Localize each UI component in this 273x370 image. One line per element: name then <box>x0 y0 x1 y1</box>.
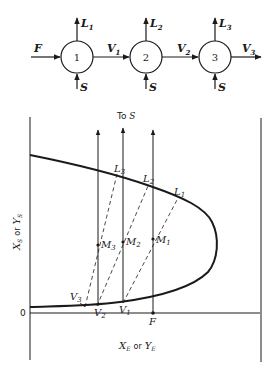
m2-point <box>121 240 124 243</box>
l2-flow-label: L2 <box>149 17 163 32</box>
v2-label: V2 <box>94 307 106 320</box>
l3-flow-label: L3 <box>218 17 232 32</box>
v3-label: V3 <box>70 291 82 304</box>
stage-3-number: 3 <box>212 52 218 63</box>
origin-label: 0 <box>20 308 26 318</box>
stage-2-number: 2 <box>143 52 149 63</box>
s1-flow-label: S <box>80 81 88 94</box>
v1-flow-label: V1 <box>107 42 120 57</box>
phase-diagram <box>30 117 261 362</box>
f-label: F <box>148 316 157 327</box>
m1-label: M1 <box>155 234 171 247</box>
m3-label: M3 <box>100 239 116 252</box>
v3-flow-label: V3 <box>242 42 256 57</box>
s2-flow-label: S <box>149 81 157 94</box>
m2-label: M2 <box>125 236 141 249</box>
stage-1-number: 1 <box>74 52 80 63</box>
crosscurrent-extraction-figure: F 1 2 3 L1 L2 L3 V1 V2 V3 S S S <box>0 0 273 370</box>
x-axis-label: XEorYE <box>118 340 156 352</box>
v2-flow-label: V2 <box>177 42 191 57</box>
f-point <box>151 311 155 315</box>
feed-label: F <box>33 42 43 55</box>
flow-diagram-labels: F 1 2 3 L1 L2 L3 V1 V2 V3 S S S <box>33 17 256 94</box>
m3-point <box>96 243 99 246</box>
m1-point <box>151 237 154 240</box>
to-s-label: To S <box>116 111 136 121</box>
y-axis-label: XSorYS <box>11 214 23 251</box>
tie-line-1 <box>123 198 178 303</box>
s3-flow-label: S <box>218 81 226 94</box>
l1-flow-label: L1 <box>80 17 94 32</box>
v1-label: V1 <box>119 304 131 317</box>
